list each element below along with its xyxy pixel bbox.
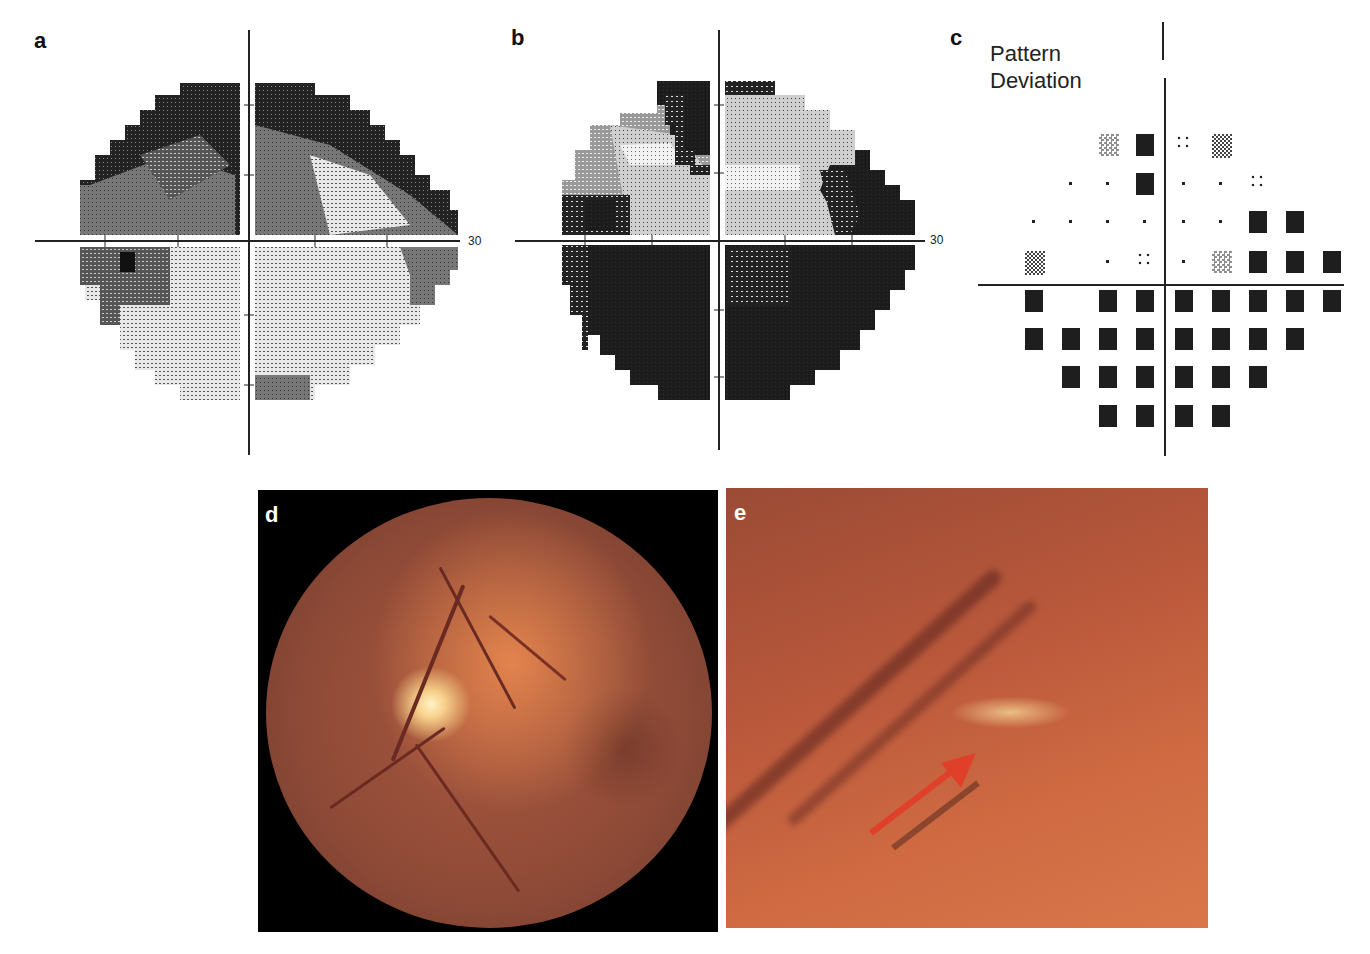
pd-symbol-black [1249, 211, 1267, 233]
pd-symbol-black [1136, 290, 1154, 312]
pd-symbol-checker [1212, 134, 1232, 158]
panel-label-d: d [265, 502, 278, 528]
pd-symbol-quad [1136, 251, 1150, 265]
pd-symbol-dot [1136, 211, 1154, 233]
panel-label-c: c [950, 25, 962, 51]
pd-symbol-sparse [1212, 251, 1232, 273]
pd-symbol-black [1249, 366, 1267, 388]
pd-symbol-dot [1025, 211, 1043, 233]
visual-field-plot-a [30, 25, 500, 465]
pd-vertical-axis-top [1162, 22, 1164, 60]
pd-symbol-black [1025, 328, 1043, 350]
pd-symbol-black [1175, 366, 1193, 388]
panel-label-e: e [734, 500, 746, 526]
pd-symbol-black [1249, 328, 1267, 350]
pd-symbol-black [1286, 251, 1304, 273]
pd-symbol-black [1212, 328, 1230, 350]
pd-symbol-black [1136, 366, 1154, 388]
pd-symbol-black [1025, 290, 1043, 312]
pd-symbol-black [1099, 366, 1117, 388]
pd-symbol-sparse [1099, 134, 1119, 156]
pattern-deviation-title-line1: Pattern [990, 40, 1082, 67]
pd-symbol-black [1136, 328, 1154, 350]
visual-field-plot-b [510, 25, 940, 455]
pd-symbol-dot [1175, 211, 1193, 233]
red-arrow-icon [866, 743, 996, 853]
pd-symbol-dot [1099, 173, 1117, 195]
pd-symbol-dot [1062, 173, 1080, 195]
pd-symbol-quad [1249, 173, 1263, 187]
pd-symbol-black [1136, 405, 1154, 427]
pd-symbol-black [1062, 366, 1080, 388]
pd-symbol-black [1099, 290, 1117, 312]
pd-symbol-black [1249, 290, 1267, 312]
panel-d-fundus-photo: d [258, 490, 718, 932]
pattern-deviation-title-line2: Deviation [990, 67, 1082, 94]
fundus-image [266, 498, 712, 928]
pd-symbol-black [1099, 405, 1117, 427]
pd-symbol-dot [1212, 173, 1230, 195]
pd-symbol-black [1212, 366, 1230, 388]
pd-symbol-black [1099, 328, 1117, 350]
pd-symbol-dot [1099, 251, 1117, 273]
pd-symbol-dot [1175, 173, 1193, 195]
pd-symbol-black [1175, 290, 1193, 312]
axis-max-label-a: 30 [468, 234, 481, 248]
pd-symbol-quad [1175, 134, 1189, 148]
pd-horizontal-axis [978, 284, 1344, 286]
pd-symbol-black [1136, 173, 1154, 195]
pd-symbol-black [1212, 405, 1230, 427]
pd-symbol-black [1175, 328, 1193, 350]
pd-symbol-dot [1212, 211, 1230, 233]
pd-symbol-dot [1175, 251, 1193, 273]
pd-symbol-black [1175, 405, 1193, 427]
pd-symbol-black [1212, 290, 1230, 312]
pd-symbol-black [1323, 251, 1341, 273]
pd-symbol-black [1286, 328, 1304, 350]
pd-symbol-dot [1099, 211, 1117, 233]
pd-symbol-black [1323, 290, 1341, 312]
axis-max-label-b: 30 [930, 233, 943, 247]
pd-symbol-black [1062, 328, 1080, 350]
pd-vertical-axis [1164, 78, 1166, 456]
pd-symbol-black [1286, 211, 1304, 233]
pd-symbol-black [1286, 290, 1304, 312]
pd-symbol-black [1249, 251, 1267, 273]
panel-e-magnified-photo: e [726, 488, 1208, 928]
pd-symbol-checker [1025, 251, 1045, 275]
pattern-deviation-title: Pattern Deviation [990, 40, 1082, 94]
pd-symbol-black [1136, 134, 1154, 156]
pd-symbol-dot [1062, 211, 1080, 233]
